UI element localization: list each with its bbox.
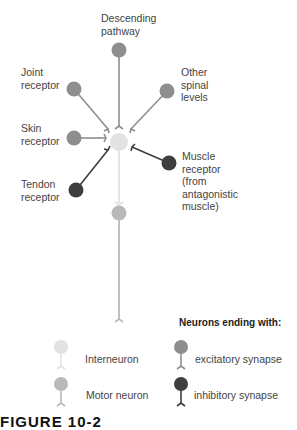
legend-interneuron-label: Interneuron: [85, 353, 139, 366]
label-tendon-receptor: Tendon receptor: [21, 178, 60, 203]
legend-interneuron-icon: [54, 340, 68, 369]
descending-pathway-neuron: [112, 43, 127, 130]
legend-title: Neurons ending with:: [179, 317, 281, 328]
legend-inhibitory-icon: [174, 377, 188, 406]
label-descending-pathway: Descending pathway: [101, 12, 156, 37]
legend-excitatory-label: excitatory synapse: [195, 353, 282, 366]
skin-receptor-neuron: [67, 131, 107, 146]
legend-inhibitory-label: inhibitory synapse: [194, 389, 278, 402]
tendon-receptor-neuron: [69, 146, 111, 198]
other-spinal-levels-neuron: [130, 84, 175, 134]
motor-neuron: [112, 206, 127, 323]
legend-motor-neuron-label: Motor neuron: [86, 389, 148, 402]
interneuron-center: [110, 133, 128, 205]
label-muscle-receptor: Muscle receptor (from antagonistic muscl…: [182, 150, 238, 213]
legend-excitatory-icon: [174, 340, 188, 369]
muscle-receptor-neuron: [131, 144, 177, 171]
label-other-spinal-levels: Other spinal levels: [181, 66, 208, 104]
label-skin-receptor: Skin receptor: [21, 122, 60, 147]
figure-caption: FIGURE 10-2: [0, 413, 102, 430]
joint-receptor-neuron: [67, 82, 110, 134]
label-joint-receptor: Joint receptor: [21, 66, 60, 91]
legend-motor-neuron-icon: [54, 377, 68, 406]
